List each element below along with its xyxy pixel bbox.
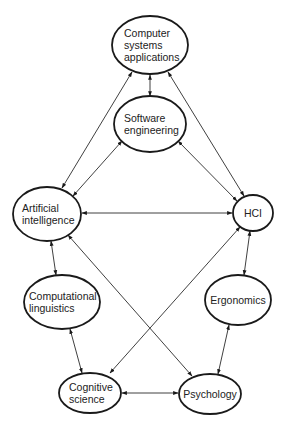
node-cs: Cognitivescience — [59, 373, 121, 413]
node-label: Software — [124, 112, 166, 124]
node-ai: Artificialintelligence — [13, 187, 81, 241]
edge-erg-psy — [218, 325, 229, 374]
node-se: Softwareengineering — [114, 96, 186, 152]
node-label: Computational — [29, 290, 97, 302]
edge-se-ai — [73, 141, 122, 196]
nodes-layer: ComputersystemsapplicationsSoftwareengin… — [13, 16, 273, 414]
node-hci: HCI — [233, 195, 273, 231]
node-cl: Computationallinguistics — [24, 275, 100, 329]
node-csa: Computersystemsapplications — [112, 16, 188, 74]
edge-ai-cl — [51, 241, 56, 275]
node-label: applications — [124, 51, 179, 63]
node-label: Cognitive — [69, 381, 113, 393]
node-label: linguistics — [29, 302, 75, 314]
node-label: systems — [124, 39, 163, 51]
node-label: HCI — [244, 207, 262, 219]
node-label: science — [69, 393, 105, 405]
node-label: Ergonomics — [210, 294, 265, 306]
node-label: engineering — [124, 124, 179, 136]
diagram-canvas: ComputersystemsapplicationsSoftwareengin… — [0, 0, 287, 425]
edge-hci-erg — [244, 231, 250, 275]
edge-cl-cs — [70, 329, 82, 373]
node-psy: Psychology — [179, 374, 241, 414]
node-erg: Ergonomics — [205, 275, 271, 325]
node-label: Computer — [124, 27, 171, 39]
node-label: Artificial — [22, 202, 59, 214]
node-label: Psychology — [183, 388, 237, 400]
node-label: intelligence — [22, 214, 75, 226]
